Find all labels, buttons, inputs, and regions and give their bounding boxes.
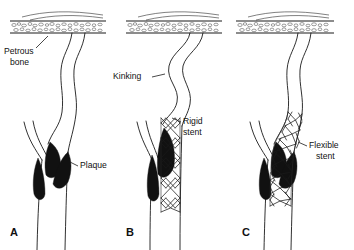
plaque-external-a bbox=[33, 158, 45, 200]
vessel-eca-left-wall-b bbox=[137, 122, 152, 160]
plaque-label-text: Plaque bbox=[80, 160, 107, 170]
bone-wisp-lower-a bbox=[30, 16, 103, 20]
flexible-stent-label-line2: stent bbox=[316, 151, 335, 161]
petrous-bone-b bbox=[126, 12, 222, 33]
bone-wisp-lower-b bbox=[146, 16, 219, 20]
flexible-stent-label-line1: Flexible bbox=[309, 140, 339, 150]
plaque-external-c bbox=[259, 158, 271, 200]
figure-canvas: Petrous bone Plaque A bbox=[0, 0, 354, 250]
bone-wisp-lower-c bbox=[256, 16, 329, 20]
bone-wisp-upper-b bbox=[138, 12, 219, 17]
petrous-bone-a bbox=[10, 12, 106, 33]
vessel-ica-right-wall-b bbox=[182, 33, 203, 126]
flexible-stent-leader bbox=[298, 142, 307, 146]
bone-wisp-upper-c bbox=[248, 12, 329, 17]
vessel-ica-right-wall-a bbox=[68, 33, 85, 152]
petrous-bone-leader bbox=[36, 36, 48, 48]
kinking-leader bbox=[152, 74, 165, 77]
panel-a: Petrous bone Plaque A bbox=[4, 12, 107, 250]
petrous-bone-label-line2: bone bbox=[10, 57, 29, 67]
rigid-stent-label-line2: stent bbox=[183, 127, 202, 137]
annotation-flexible-stent: Flexible stent bbox=[298, 140, 339, 161]
petrous-bone-label-line1: Petrous bbox=[4, 46, 34, 56]
panel-b: Kinking Rigid stent B bbox=[113, 12, 222, 250]
bone-wisp-upper-a bbox=[22, 12, 103, 17]
annotation-kinking: Kinking bbox=[113, 71, 165, 81]
vessel-eca-right-wall-a bbox=[33, 121, 48, 158]
vessel-eca-right-wall-b bbox=[146, 121, 158, 158]
panel-c: Flexible stent C bbox=[236, 12, 339, 250]
annotation-petrous-bone: Petrous bone bbox=[4, 36, 48, 67]
carotid-stent-figure: Petrous bone Plaque A bbox=[0, 0, 354, 250]
rigid-stent-label-line1: Rigid bbox=[183, 116, 203, 126]
annotation-plaque: Plaque bbox=[70, 160, 107, 170]
plaque-leader bbox=[70, 162, 78, 166]
vessel-eca-right-wall-c bbox=[259, 121, 274, 158]
panel-letter-c: C bbox=[242, 226, 250, 238]
vessel-ica-left-wall-a bbox=[48, 33, 72, 144]
petrous-bone-c bbox=[236, 12, 334, 33]
vessel-ica-left-wall-b bbox=[163, 33, 190, 124]
kinking-label-text: Kinking bbox=[113, 71, 141, 81]
panel-letter-b: B bbox=[126, 226, 134, 238]
panel-letter-a: A bbox=[10, 226, 18, 238]
